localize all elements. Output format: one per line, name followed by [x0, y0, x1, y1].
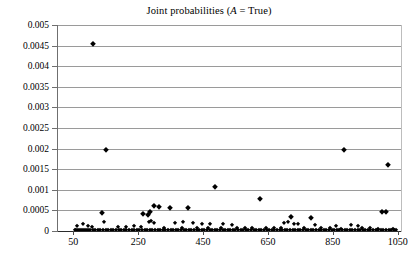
- chart-title-prefix: Joint probabilities (: [146, 5, 230, 16]
- y-axis-tick: [52, 149, 58, 150]
- x-axis-tick: [73, 231, 74, 235]
- gridline: [57, 107, 401, 108]
- y-axis-tick-label: 0.0015: [23, 164, 49, 174]
- gridline: [57, 190, 401, 191]
- y-axis-tick: [52, 169, 58, 170]
- x-axis-tick-label: 850: [325, 236, 340, 247]
- gridline: [57, 128, 401, 129]
- chart-figure: Joint probabilities (A = True) 0.0050.00…: [0, 0, 418, 260]
- gridline: [57, 169, 401, 170]
- y-axis-tick-label: 0.0035: [23, 82, 49, 92]
- y-axis-tick: [52, 66, 58, 67]
- x-axis-tick: [333, 231, 334, 235]
- y-axis-tick-label: 0: [44, 226, 49, 236]
- x-axis-tick: [203, 231, 204, 235]
- y-axis-tick: [52, 210, 58, 211]
- plot-right-border: [401, 25, 402, 232]
- y-axis-tick: [52, 128, 58, 129]
- y-axis-tick-label: 0.0045: [23, 41, 49, 51]
- y-axis-tick-label: 0.005: [28, 20, 49, 30]
- gridline: [57, 210, 401, 211]
- x-axis-tick: [268, 231, 269, 235]
- y-axis-tick: [52, 46, 58, 47]
- y-axis-tick-label: 0.002: [28, 144, 49, 154]
- y-axis-tick-label: 0.0005: [23, 205, 49, 215]
- x-axis-line: [57, 231, 402, 232]
- y-axis-tick: [52, 190, 58, 191]
- y-axis-tick-label: 0.004: [28, 61, 49, 71]
- x-axis-tick-label: 1050: [388, 236, 408, 247]
- x-axis-tick: [398, 231, 399, 235]
- y-axis-tick-label: 0.003: [28, 102, 49, 112]
- gridlines: [57, 25, 401, 231]
- plot-area: [57, 25, 401, 231]
- x-axis-tick-label: 650: [260, 236, 275, 247]
- chart-title-suffix: = True): [237, 5, 272, 16]
- gridline: [57, 25, 401, 26]
- gridline: [57, 46, 401, 47]
- y-axis-tick-label: 0.0025: [23, 123, 49, 133]
- x-axis-tick: [138, 231, 139, 235]
- y-axis-tick: [52, 231, 58, 232]
- y-axis-tick: [52, 25, 58, 26]
- gridline: [57, 66, 401, 67]
- x-axis-tick-label: 450: [196, 236, 211, 247]
- x-axis-tick-label: 50: [68, 236, 78, 247]
- x-axis-tick-label: 250: [131, 236, 146, 247]
- gridline: [57, 87, 401, 88]
- y-axis-tick: [52, 87, 58, 88]
- chart-title: Joint probabilities (A = True): [0, 5, 418, 16]
- y-axis-tick: [52, 107, 58, 108]
- y-axis-tick-label: 0.001: [28, 185, 49, 195]
